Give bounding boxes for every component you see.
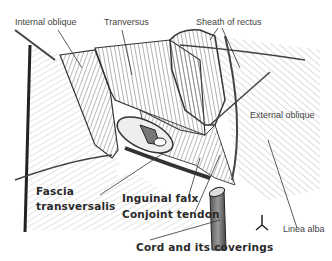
label-conjoint-tendon: Conjoint tendon bbox=[122, 208, 220, 220]
label-cord-and-coverings: Cord and its coverings bbox=[136, 241, 273, 253]
label-linea-alba: Linea alba bbox=[283, 224, 325, 234]
label-inguinal-falx: Inguinal falx bbox=[122, 192, 198, 204]
inguinal-region-illustration bbox=[0, 0, 332, 261]
anatomy-diagram: Internal oblique Tranversus Sheath of re… bbox=[0, 0, 332, 261]
label-fascia: Fascia bbox=[36, 185, 74, 197]
label-transversalis: transversalis bbox=[36, 200, 116, 212]
label-sheath-of-rectus: Sheath of rectus bbox=[196, 17, 262, 27]
label-external-oblique: External oblique bbox=[250, 110, 315, 120]
label-internal-oblique: Internal oblique bbox=[15, 17, 77, 27]
label-transversus: Tranversus bbox=[104, 17, 149, 27]
